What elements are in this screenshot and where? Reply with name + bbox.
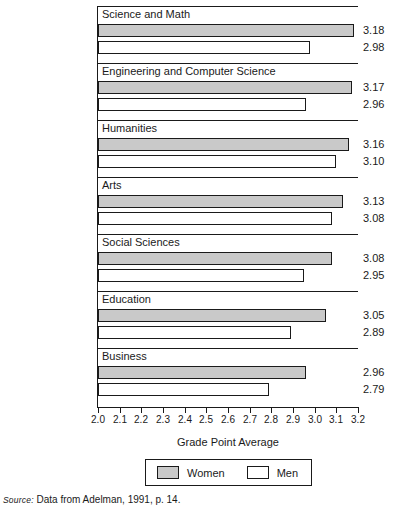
bar-value-label-men: 2.95 [363, 269, 384, 282]
bar-value-label-men: 2.96 [363, 98, 384, 111]
x-axis-tick-mark [185, 408, 186, 413]
bar-men [98, 269, 304, 282]
bar-men [98, 41, 310, 54]
bar-men [98, 326, 291, 339]
legend-label-men: Men [277, 467, 298, 479]
x-axis-tick-mark [163, 408, 164, 413]
x-axis-tick-mark [293, 408, 294, 413]
category-label: Science and Math [102, 7, 190, 22]
category-label: Engineering and Computer Science [102, 64, 276, 79]
legend-label-women: Women [187, 467, 225, 479]
group-separator-rule [97, 177, 358, 178]
bar-value-label-women: 3.18 [363, 24, 384, 37]
category-label: Business [102, 349, 147, 364]
bar-women [98, 81, 352, 94]
bar-value-label-women: 3.05 [363, 309, 384, 322]
bar-value-label-men: 3.10 [363, 155, 384, 168]
x-axis-tick-mark [336, 408, 337, 413]
bar-value-label-men: 2.79 [363, 383, 384, 396]
bar-value-label-women: 2.96 [363, 366, 384, 379]
category-label: Social Sciences [102, 235, 180, 250]
bar-women [98, 366, 306, 379]
bar-value-label-women: 3.16 [363, 138, 384, 151]
bar-value-label-women: 3.17 [363, 81, 384, 94]
category-label: Education [102, 292, 151, 307]
bar-women [98, 138, 349, 151]
category-label: Humanities [102, 121, 157, 136]
x-axis-tick-mark [141, 408, 142, 413]
bar-value-label-women: 3.08 [363, 252, 384, 265]
bar-men [98, 212, 332, 225]
legend-swatch-men-icon [247, 466, 269, 479]
bar-men [98, 155, 336, 168]
x-axis-tick-mark [315, 408, 316, 413]
x-axis-tick-mark [250, 408, 251, 413]
legend-item-men: Men [247, 466, 298, 479]
source-note: Source: Data from Adelman, 1991, p. 14. [3, 494, 180, 506]
category-label: Arts [102, 178, 122, 193]
bar-value-label-men: 3.08 [363, 212, 384, 225]
bar-women [98, 195, 343, 208]
x-axis-tick-mark [206, 408, 207, 413]
x-axis-title: Grade Point Average [97, 436, 359, 448]
bar-women [98, 252, 332, 265]
bar-value-label-women: 3.13 [363, 195, 384, 208]
legend-swatch-women-icon [157, 466, 179, 479]
x-axis-tick-mark [271, 408, 272, 413]
bar-men [98, 383, 269, 396]
x-axis-tick-mark [228, 408, 229, 413]
bar-chart-figure: GRADE POINT AVERAGE BY FIELD Science and… [0, 0, 416, 514]
bar-value-label-men: 2.89 [363, 326, 384, 339]
chart-legend: Women Men [145, 459, 312, 486]
legend-item-women: Women [157, 466, 225, 479]
bar-men [98, 98, 306, 111]
bar-women [98, 309, 326, 322]
bar-value-label-men: 2.98 [363, 41, 384, 54]
bar-women [98, 24, 354, 37]
x-axis-tick-mark [120, 408, 121, 413]
source-prefix: Source: [3, 495, 34, 505]
x-axis-tick-label: 3.2 [345, 414, 371, 426]
source-citation: Data from Adelman, 1991, p. 14. [34, 494, 181, 505]
x-axis-tick-mark [358, 408, 359, 413]
x-axis-tick-mark [98, 408, 99, 413]
